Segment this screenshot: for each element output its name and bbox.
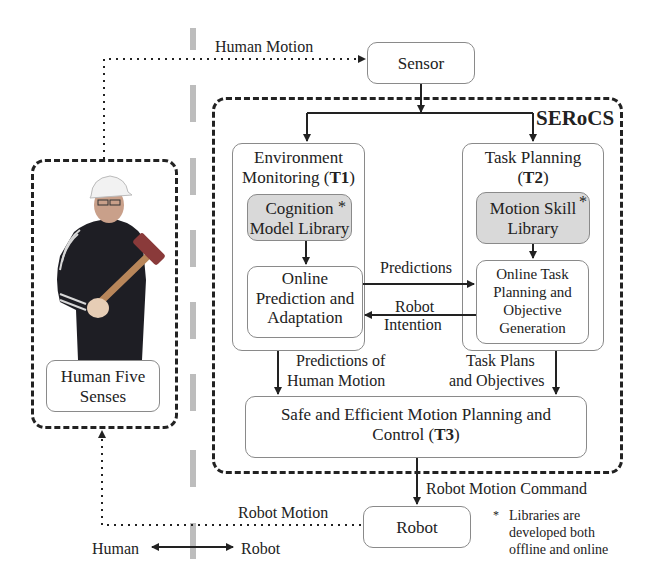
cognition-model-library-node: Cognition Model Library * bbox=[247, 194, 352, 241]
human-robot-divider bbox=[190, 85, 196, 122]
predictions-edge-label: Predictions bbox=[380, 260, 452, 276]
cognition-line2: Model Library bbox=[248, 219, 351, 239]
online-prediction-line1: Online bbox=[248, 269, 362, 289]
human-robot-divider bbox=[190, 523, 196, 559]
worker-figure bbox=[46, 170, 176, 360]
t3-line1: Safe and Efficient Motion Planning and bbox=[246, 405, 586, 425]
t1-tag: T1 bbox=[329, 168, 349, 187]
human-five-senses-node: Human Five Senses bbox=[46, 360, 160, 412]
t2-close: ) bbox=[543, 168, 549, 187]
online-task-line2: Planning and bbox=[477, 283, 588, 301]
footnote-star: * bbox=[493, 508, 499, 522]
online-task-line4: Generation bbox=[477, 319, 588, 337]
human-motion-edge-label: Human Motion bbox=[215, 39, 313, 55]
robot-motion-edge-label: Robot Motion bbox=[238, 505, 328, 521]
online-task-line1: Online Task bbox=[477, 265, 588, 283]
construction-worker-icon bbox=[46, 170, 176, 360]
online-prediction-line3: Adaptation bbox=[248, 308, 362, 328]
human-robot-divider bbox=[190, 28, 196, 50]
sensor-node: Sensor bbox=[367, 42, 475, 84]
human-robot-divider bbox=[190, 450, 196, 487]
task-plans-label-2: and Objectives bbox=[449, 373, 545, 389]
human-five-senses-line2: Senses bbox=[47, 387, 159, 407]
motion-skill-line2: Library bbox=[477, 219, 589, 239]
online-task-line3: Objective bbox=[477, 301, 588, 319]
t3-line2: Control ( bbox=[372, 425, 434, 444]
footnote: * Libraries are developed both offline a… bbox=[493, 508, 608, 558]
cognition-line1: Cognition bbox=[248, 199, 351, 219]
footnote-line3: offline and online bbox=[509, 542, 608, 559]
online-task-planning-node: Online Task Planning and Objective Gener… bbox=[476, 260, 589, 344]
robot-intention-edge-label-2: Intention bbox=[384, 317, 442, 333]
robot-motion-command-label: Robot Motion Command bbox=[426, 481, 587, 497]
t2-title-line1: Task Planning bbox=[463, 148, 603, 168]
human-robot-divider bbox=[190, 158, 196, 195]
task-plans-label-1: Task Plans bbox=[466, 353, 535, 369]
library-star-marker: * bbox=[338, 199, 346, 215]
online-prediction-line2: Prediction and bbox=[248, 289, 362, 309]
online-prediction-adaptation-node: Online Prediction and Adaptation bbox=[247, 266, 363, 338]
human-side-label: Human bbox=[92, 541, 139, 557]
t1-title-line2: Monitoring ( bbox=[242, 168, 329, 187]
serocs-title: SERoCS bbox=[536, 108, 614, 129]
human-robot-divider bbox=[190, 230, 196, 267]
robot-side-label: Robot bbox=[241, 541, 280, 557]
human-five-senses-line1: Human Five bbox=[47, 367, 159, 387]
motion-skill-line1: Motion Skill bbox=[477, 199, 589, 219]
footnote-line1: Libraries are bbox=[509, 508, 608, 525]
t3-tag: T3 bbox=[434, 425, 454, 444]
library-star-marker: * bbox=[579, 194, 587, 210]
robot-label: Robot bbox=[364, 518, 470, 538]
t1-title-line1: Environment bbox=[233, 148, 364, 168]
t2-tag: T2 bbox=[523, 168, 543, 187]
sensor-label: Sensor bbox=[368, 54, 474, 74]
motion-planning-control-t3-node: Safe and Efficient Motion Planning and C… bbox=[245, 396, 587, 458]
robot-node: Robot bbox=[363, 506, 471, 548]
human-robot-divider bbox=[190, 302, 196, 339]
predictions-of-human-label-2: Human Motion bbox=[287, 373, 385, 389]
robot-intention-edge-label-1: Robot bbox=[395, 299, 434, 315]
t3-close: ) bbox=[454, 425, 460, 444]
predictions-of-human-label-1: Predictions of bbox=[296, 353, 385, 369]
human-robot-divider bbox=[190, 374, 196, 411]
t1-close: ) bbox=[349, 168, 355, 187]
footnote-line2: developed both bbox=[509, 525, 608, 542]
motion-skill-library-node: Motion Skill Library * bbox=[476, 192, 590, 244]
